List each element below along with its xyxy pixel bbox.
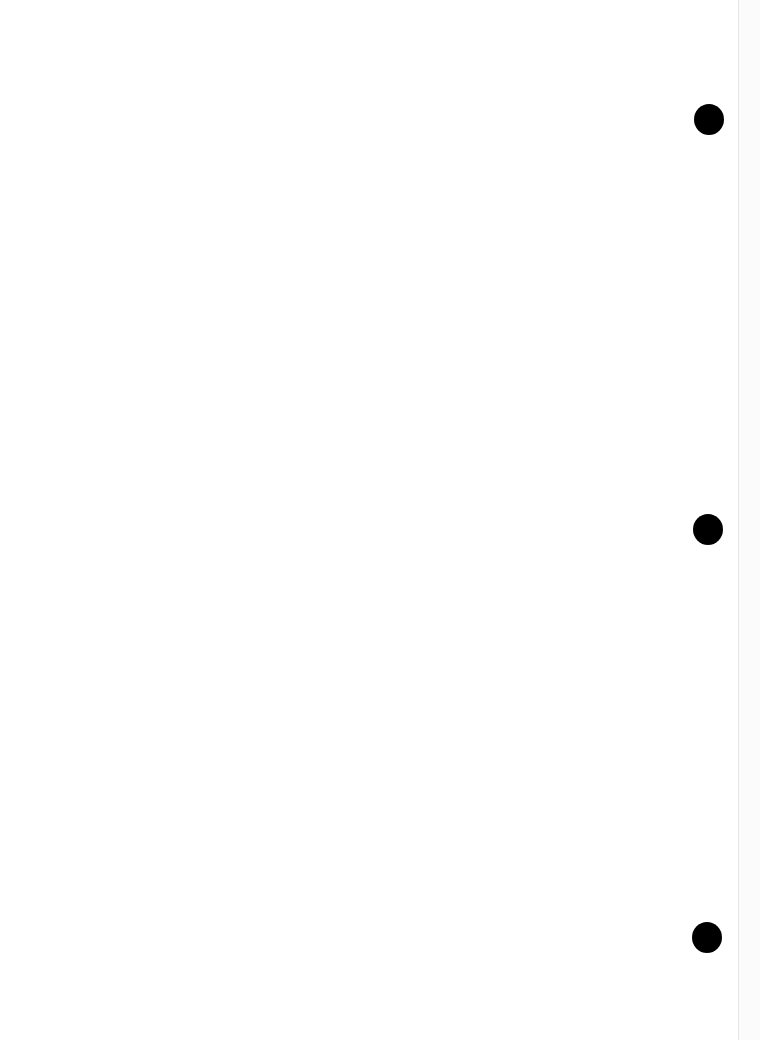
page-description: Blank scanned page with three hole punch…: [0, 0, 1, 1]
blank-scanned-page: Blank scanned page with three hole punch…: [0, 0, 760, 1040]
punch-hole-bottom: [692, 922, 722, 953]
page-edge-strip: [738, 0, 760, 1040]
punch-hole-top: [694, 104, 724, 135]
punch-hole-middle: [693, 514, 723, 545]
